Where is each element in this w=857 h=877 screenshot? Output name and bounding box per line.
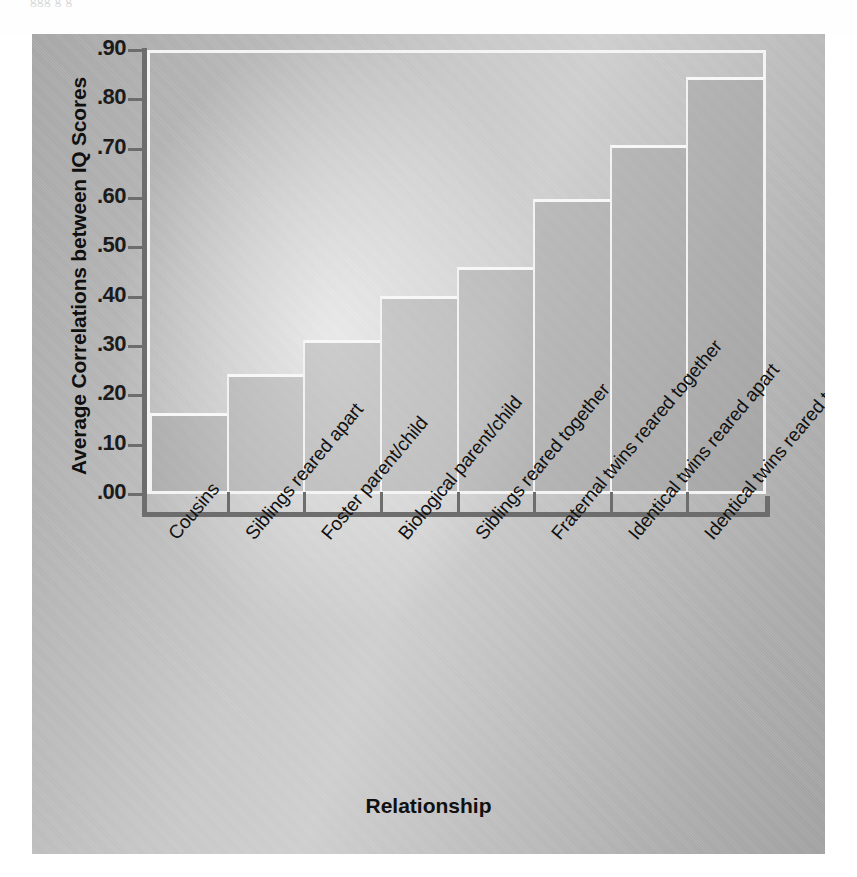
figure-page: ggg g g Average Correlations between IQ … bbox=[0, 0, 857, 877]
x-axis-category-label: Siblings reared together bbox=[471, 379, 614, 544]
chart-figure: Average Correlations between IQ Scores .… bbox=[32, 34, 825, 854]
x-axis-category-label: Cousins bbox=[164, 478, 224, 544]
bleed-through-text: ggg g g bbox=[30, 0, 73, 8]
page-top-margin: ggg g g bbox=[0, 0, 857, 34]
x-axis-category-labels: CousinsSiblings reared apartFoster paren… bbox=[32, 34, 825, 854]
x-axis-title: Relationship bbox=[32, 794, 825, 818]
x-axis-category-label: Identical twins reared apart bbox=[624, 360, 784, 545]
